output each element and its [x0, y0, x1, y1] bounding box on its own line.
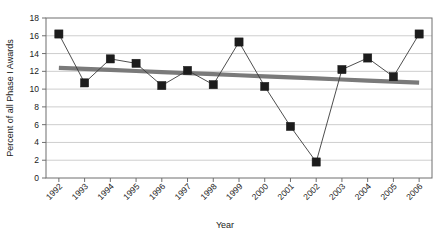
y-tick-label: 14	[30, 49, 40, 59]
data-point-marker	[158, 81, 166, 89]
data-point-marker	[235, 38, 243, 46]
y-tick-label: 0	[34, 173, 39, 183]
x-tick-label: 2005	[378, 181, 399, 202]
x-axis-title: Year	[216, 220, 234, 230]
data-point-marker	[209, 81, 217, 89]
data-point-marker	[338, 65, 346, 73]
data-point-marker	[415, 30, 423, 38]
x-tick-label: 1998	[198, 181, 219, 202]
x-tick-label: 2001	[275, 181, 296, 202]
y-tick-label: 6	[34, 120, 39, 130]
x-tick-label: 2002	[301, 181, 322, 202]
x-tick-label: 1994	[95, 181, 116, 202]
data-point-marker	[132, 59, 140, 67]
x-tick-label: 2004	[353, 181, 374, 202]
chart-figure: 024681012141618 199219931994199519961997…	[0, 0, 448, 238]
data-point-marker	[286, 122, 294, 130]
data-point-marker	[81, 79, 89, 87]
x-tick-label: 1997	[172, 181, 193, 202]
x-tick-label: 1992	[44, 181, 65, 202]
y-tick-label: 16	[30, 31, 40, 41]
x-tick-label: 1999	[224, 181, 245, 202]
x-tick-label: 2000	[250, 181, 271, 202]
x-tick-label: 1993	[70, 181, 91, 202]
y-tick-label: 12	[30, 66, 40, 76]
y-tick-label: 18	[30, 13, 40, 23]
x-tick-label: 1996	[147, 181, 168, 202]
x-axis-labels: 1992199319941995199619971998199920002001…	[44, 181, 425, 202]
data-point-marker	[389, 73, 397, 81]
y-tick-label: 4	[34, 137, 39, 147]
x-tick-label: 2003	[327, 181, 348, 202]
x-tick-label: 2006	[404, 181, 425, 202]
data-point-marker	[183, 66, 191, 74]
y-tick-label: 8	[34, 102, 39, 112]
data-point-marker	[364, 54, 372, 62]
data-point-marker	[106, 55, 114, 63]
y-tick-label: 10	[30, 84, 40, 94]
y-axis-title: Percent of all Phase I Awards	[5, 39, 15, 157]
data-point-marker	[312, 158, 320, 166]
y-axis-ticks: 024681012141618	[30, 13, 46, 183]
data-point-marker	[261, 82, 269, 90]
line-chart-svg: 024681012141618 199219931994199519961997…	[0, 0, 448, 238]
x-tick-label: 1995	[121, 181, 142, 202]
y-tick-label: 2	[34, 155, 39, 165]
data-point-marker	[55, 30, 63, 38]
